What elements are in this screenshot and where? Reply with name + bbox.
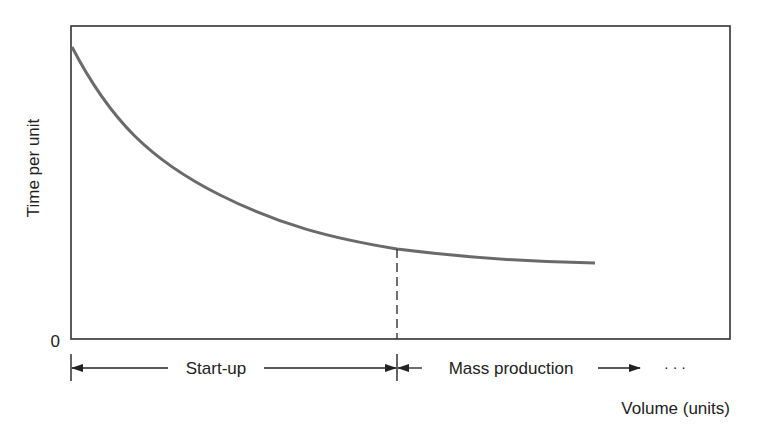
chart: Time per unit 0 Start-up Mass production… — [0, 0, 769, 435]
continuation-ellipsis: · · · — [664, 359, 686, 375]
learning-curve — [72, 47, 595, 263]
y-origin-tick-label: 0 — [51, 332, 60, 351]
plot-frame — [71, 26, 730, 339]
y-axis-label: Time per unit — [24, 118, 43, 217]
mass-production-label: Mass production — [449, 359, 574, 378]
startup-label: Start-up — [186, 359, 246, 378]
x-axis-label: Volume (units) — [621, 399, 730, 418]
